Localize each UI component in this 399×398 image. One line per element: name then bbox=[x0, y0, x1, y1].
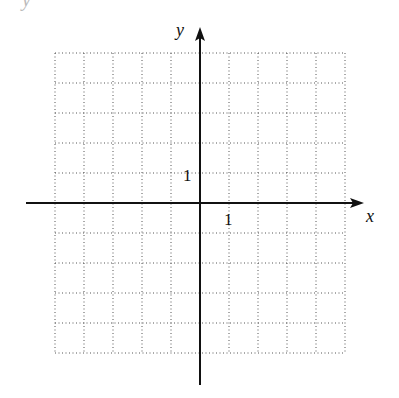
y-axis bbox=[195, 27, 205, 385]
x-axis bbox=[26, 198, 364, 208]
x-axis-label: x bbox=[365, 206, 374, 226]
coordinate-plane: y y x 1 1 bbox=[0, 0, 399, 398]
cropped-label: y bbox=[20, 0, 31, 11]
x-tick-label: 1 bbox=[224, 210, 233, 229]
y-axis-label: y bbox=[174, 20, 184, 40]
y-tick-label: 1 bbox=[183, 166, 192, 185]
